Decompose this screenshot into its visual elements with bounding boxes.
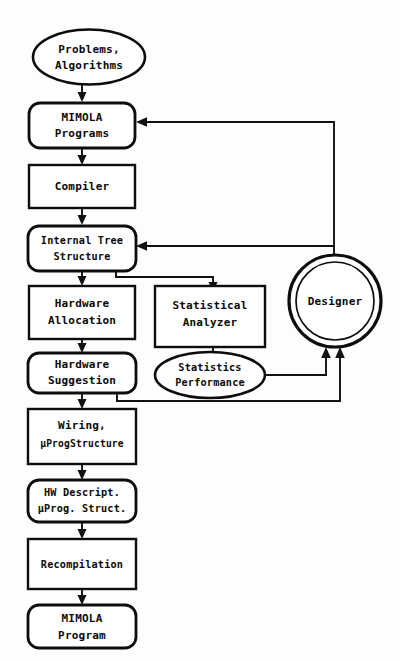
recompilation-label: Recompilation (41, 559, 123, 570)
edge-mimola-programs-to-compiler (78, 148, 87, 165)
node-designer[interactable]: Designer (289, 255, 381, 347)
node-hardware-suggestion[interactable]: Hardware Suggestion (28, 353, 136, 393)
hardware-suggestion-label-line1: Hardware (55, 358, 110, 371)
edge-wiring-to-hw-descript (78, 464, 87, 480)
hw-descript-prog-struct-label-line2: µProg. Struct. (38, 503, 127, 514)
statistics-performance-shape (155, 352, 265, 398)
edge-designer-to-internal-tree (136, 241, 334, 251)
node-wiring-prog-structure[interactable]: Wiring, µProgStructure (28, 409, 136, 464)
node-internal-tree-structure[interactable]: Internal Tree Structure (28, 226, 136, 271)
designer-label: Designer (308, 295, 363, 308)
node-hardware-allocation[interactable]: Hardware Allocation (29, 286, 135, 339)
internal-tree-structure-shape (28, 226, 136, 271)
mimola-programs-shape (29, 103, 135, 148)
flowchart-canvas: Problems, Algorithms MIMOLA Programs Com… (0, 0, 400, 661)
wiring-prog-structure-shape (28, 409, 136, 464)
statistical-analyzer-label-line2: Analyzer (183, 316, 238, 329)
internal-tree-structure-label-line1: Internal Tree (41, 235, 123, 246)
hardware-allocation-shape (29, 286, 135, 339)
mimola-program-output-label-line2: Program (58, 629, 106, 642)
mimola-programs-label-line2: Programs (55, 127, 110, 140)
edge-designer-to-mimola-programs (136, 117, 334, 254)
problems-algorithms-shape (33, 30, 145, 85)
flowchart-svg: Problems, Algorithms MIMOLA Programs Com… (0, 0, 400, 661)
node-recompilation[interactable]: Recompilation (28, 539, 136, 589)
hw-descript-prog-struct-label-line1: HW Descript. (44, 487, 120, 498)
node-statistics-performance[interactable]: Statistics Performance (155, 352, 265, 398)
hardware-allocation-label-line2: Allocation (48, 314, 116, 327)
edge-recompilation-to-mimola-program (78, 589, 87, 605)
edge-compiler-to-internal-tree (78, 208, 87, 225)
mimola-program-output-label-line1: MIMOLA (62, 612, 103, 625)
statistics-performance-label-line1: Statistics (178, 362, 241, 373)
node-problems-algorithms[interactable]: Problems, Algorithms (33, 30, 145, 85)
internal-tree-structure-label-line2: Structure (53, 251, 110, 262)
statistical-analyzer-label-line1: Statistical (172, 299, 247, 312)
node-mimola-programs[interactable]: MIMOLA Programs (29, 103, 135, 148)
edge-internal-tree-to-hardware-allocation (78, 271, 87, 286)
edge-hardware-allocation-to-hardware-suggestion (78, 339, 87, 353)
edge-hw-descript-to-recompilation (78, 522, 87, 539)
node-hw-descript-prog-struct[interactable]: HW Descript. µProg. Struct. (28, 480, 136, 522)
problems-algorithms-label-line1: Problems, (58, 43, 119, 56)
node-mimola-program-output[interactable]: MIMOLA Program (28, 605, 136, 648)
hardware-suggestion-label-line2: Suggestion (48, 374, 116, 387)
statistics-performance-label-line2: Performance (175, 377, 245, 388)
problems-algorithms-label-line2: Algorithms (55, 59, 123, 72)
compiler-label: Compiler (55, 180, 110, 193)
node-compiler[interactable]: Compiler (29, 165, 135, 208)
edge-hardware-suggestion-to-wiring (78, 392, 87, 409)
mimola-programs-label-line1: MIMOLA (62, 111, 103, 124)
edge-problems-to-mimola-programs (78, 85, 87, 102)
edge-statistics-performance-to-designer (265, 347, 331, 375)
node-statistical-analyzer[interactable]: Statistical Analyzer (155, 286, 265, 347)
hardware-allocation-label-line1: Hardware (55, 297, 110, 310)
wiring-prog-structure-label-line1: Wiring, (58, 419, 106, 432)
wiring-prog-structure-label-line2: µProgStructure (40, 438, 124, 449)
